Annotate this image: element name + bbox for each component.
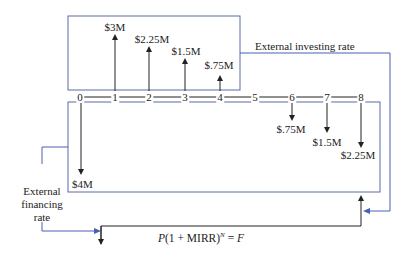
outflow-label-6: $.75M: [276, 123, 305, 135]
formula-f: F: [237, 232, 244, 244]
inflow-label-2: $2.25M: [135, 33, 170, 45]
inflow-label-4: $.75M: [204, 59, 233, 71]
financing-rate-label-line2: financing: [21, 198, 63, 210]
mirr-formula: P(1 + MIRR)N = F: [158, 231, 244, 244]
period-label-0: 0: [76, 91, 84, 103]
inflow-label-3: $1.5M: [171, 45, 200, 57]
financing-rate-label-line3: rate: [34, 211, 50, 223]
period-label-6: 6: [288, 91, 296, 103]
outflow-label-0: $4M: [72, 178, 93, 190]
period-label-4: 4: [216, 91, 224, 103]
period-label-2: 2: [145, 91, 153, 103]
inflow-label-1: $3M: [105, 21, 126, 33]
inflow-box: [68, 16, 240, 90]
investing-rate-label: External investing rate: [255, 40, 355, 52]
outflow-label-8: $2.25M: [341, 149, 376, 161]
formula-eq: =: [225, 232, 237, 244]
period-label-5: 5: [251, 91, 259, 103]
period-label-1: 1: [111, 91, 119, 103]
investing-rate-flow: [240, 53, 390, 211]
period-label-7: 7: [323, 91, 331, 103]
formula-p: P: [158, 232, 165, 244]
financing-rate-flow-top: [42, 147, 68, 164]
period-label-3: 3: [181, 91, 189, 103]
financing-rate-flow-bottom: [42, 222, 98, 231]
period-label-8: 8: [357, 91, 365, 103]
financing-rate-label-line1: External: [23, 185, 60, 197]
diagram-canvas: [0, 0, 410, 256]
outflow-label-7: $1.5M: [312, 136, 341, 148]
formula-mid: (1 + MIRR): [165, 232, 220, 244]
